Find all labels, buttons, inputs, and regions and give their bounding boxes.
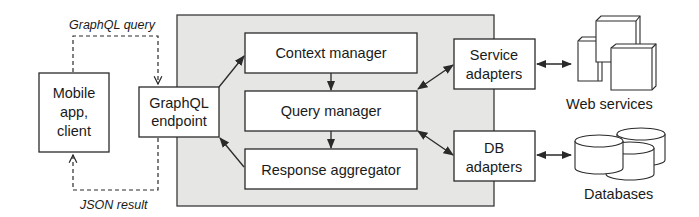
node-response-aggregator: Response aggregator: [245, 149, 417, 189]
architecture-diagram: GraphQL query JSON result Mobile app, cl…: [0, 0, 699, 217]
svg-text:adapters: adapters: [466, 159, 522, 175]
edge-label-graphql-query: GraphQL query: [69, 18, 156, 32]
svg-text:client: client: [57, 123, 91, 139]
node-graphql-endpoint: GraphQL endpoint: [139, 87, 219, 137]
svg-text:adapters: adapters: [466, 66, 522, 82]
web-services-label: Web services: [566, 96, 653, 112]
node-service-adapters: Service adapters: [454, 39, 535, 89]
svg-text:Context manager: Context manager: [275, 45, 386, 61]
svg-text:Service: Service: [470, 47, 518, 63]
svg-text:Mobile: Mobile: [53, 85, 96, 101]
svg-text:DB: DB: [484, 140, 504, 156]
databases-label: Databases: [584, 186, 653, 202]
edge-label-json-result: JSON result: [79, 198, 148, 212]
svg-text:endpoint: endpoint: [151, 113, 207, 129]
node-query-manager: Query manager: [245, 91, 417, 131]
node-db-adapters: DB adapters: [454, 131, 535, 181]
node-context-manager: Context manager: [245, 33, 417, 73]
svg-text:Query manager: Query manager: [281, 103, 382, 119]
svg-text:GraphQL: GraphQL: [149, 95, 209, 111]
svg-text:app,: app,: [60, 104, 88, 120]
node-mobile-client: Mobile app, client: [39, 73, 109, 152]
database-stack-icon: [575, 128, 665, 180]
svg-text:Response aggregator: Response aggregator: [261, 162, 401, 178]
server-stack-icon: [578, 16, 656, 90]
